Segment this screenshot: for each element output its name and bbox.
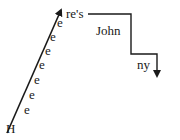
- letter-e-3: e: [34, 72, 40, 87]
- letter-e-2: e: [29, 87, 35, 102]
- letter-e-6: e: [50, 29, 56, 44]
- letter-e-1: e: [24, 102, 30, 117]
- letter-e-7: e: [57, 15, 63, 30]
- top-text: re's: [66, 6, 84, 21]
- word-path-figure: H e e e e e e e re's John ny: [0, 0, 180, 140]
- end-text: ny: [137, 57, 151, 72]
- letter-e-5: e: [45, 43, 51, 58]
- letter-e-4: e: [39, 57, 45, 72]
- letter-h: H: [6, 121, 15, 136]
- middle-word: John: [96, 23, 121, 38]
